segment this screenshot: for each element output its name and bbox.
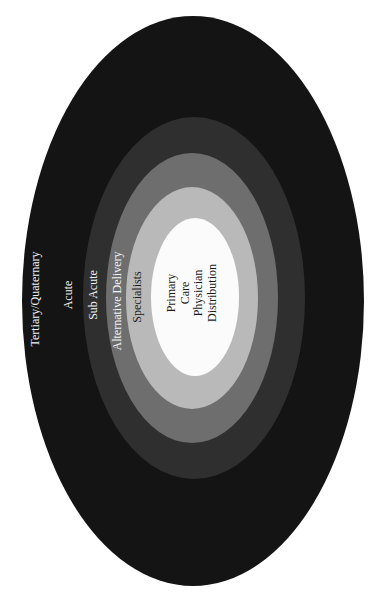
label-primary-care-physician-distribution: Primary Care Physician Distribution <box>165 264 219 322</box>
center-label-line-3: Physician <box>192 264 206 322</box>
center-label-line-4: Distribution <box>206 264 220 322</box>
label-alternative-delivery: Alternative Delivery <box>111 252 124 351</box>
center-label-line-1: Primary <box>165 264 179 322</box>
label-acute: Acute <box>62 281 75 310</box>
center-label-line-2: Care <box>179 264 193 322</box>
label-tertiary-quaternary: Tertiary/Quaternary <box>29 251 42 346</box>
label-sub-acute: Sub Acute <box>87 270 100 320</box>
label-specialists: Specialists <box>131 271 144 322</box>
